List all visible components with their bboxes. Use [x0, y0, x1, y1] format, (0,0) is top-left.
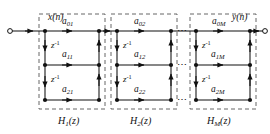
- coefficient-label-a12: a12: [134, 50, 145, 61]
- node: [43, 29, 47, 33]
- node: [115, 29, 119, 33]
- delay-label-3a: z-1: [202, 40, 211, 50]
- node: [248, 29, 252, 33]
- coefficient-label-a22: a22: [134, 85, 145, 96]
- coefficient-label-a21: a21: [62, 85, 73, 96]
- coefficient-label-a0M: a0M: [212, 17, 226, 28]
- node: [169, 98, 173, 102]
- node: [115, 63, 119, 67]
- node: [169, 29, 173, 33]
- coefficient-label-a1M: a1M: [211, 50, 225, 61]
- coefficient-label-a2M: a2M: [211, 85, 225, 96]
- input-terminal: [8, 29, 13, 34]
- node: [248, 63, 252, 67]
- node: [248, 98, 252, 102]
- node: [169, 63, 173, 67]
- section-label-2: H2(z): [130, 116, 151, 128]
- delay-label-1a: z-1: [51, 40, 60, 50]
- ellipsis-bottom: ⋯: [177, 95, 188, 105]
- node: [97, 98, 101, 102]
- input-label: x(n): [48, 13, 63, 23]
- output-label: y(n): [232, 13, 247, 23]
- filter-diagram: x(n) y(n) a01 a02 a0M z-1 a11 z-1 a12 z-…: [0, 0, 270, 134]
- delay-label-2b: z-1: [123, 74, 132, 84]
- node: [194, 63, 198, 67]
- delay-label-1b: z-1: [51, 74, 60, 84]
- output-terminal: [263, 29, 268, 34]
- node: [97, 63, 101, 67]
- node: [115, 98, 119, 102]
- coefficient-label-a02: a02: [134, 17, 145, 28]
- node: [194, 98, 198, 102]
- ellipsis-top: ⋯: [177, 26, 188, 36]
- section-label-1: H1(z): [58, 116, 79, 128]
- node: [43, 98, 47, 102]
- node: [43, 63, 47, 67]
- node: [194, 29, 198, 33]
- delay-label-3b: z-1: [202, 74, 211, 84]
- delay-label-2a: z-1: [123, 40, 132, 50]
- ellipsis-middle: ⋯: [177, 60, 188, 70]
- node: [97, 29, 101, 33]
- coefficient-label-a11: a11: [62, 50, 73, 61]
- coefficient-label-a01: a01: [62, 17, 73, 28]
- section-label-3: HM(z): [207, 116, 231, 128]
